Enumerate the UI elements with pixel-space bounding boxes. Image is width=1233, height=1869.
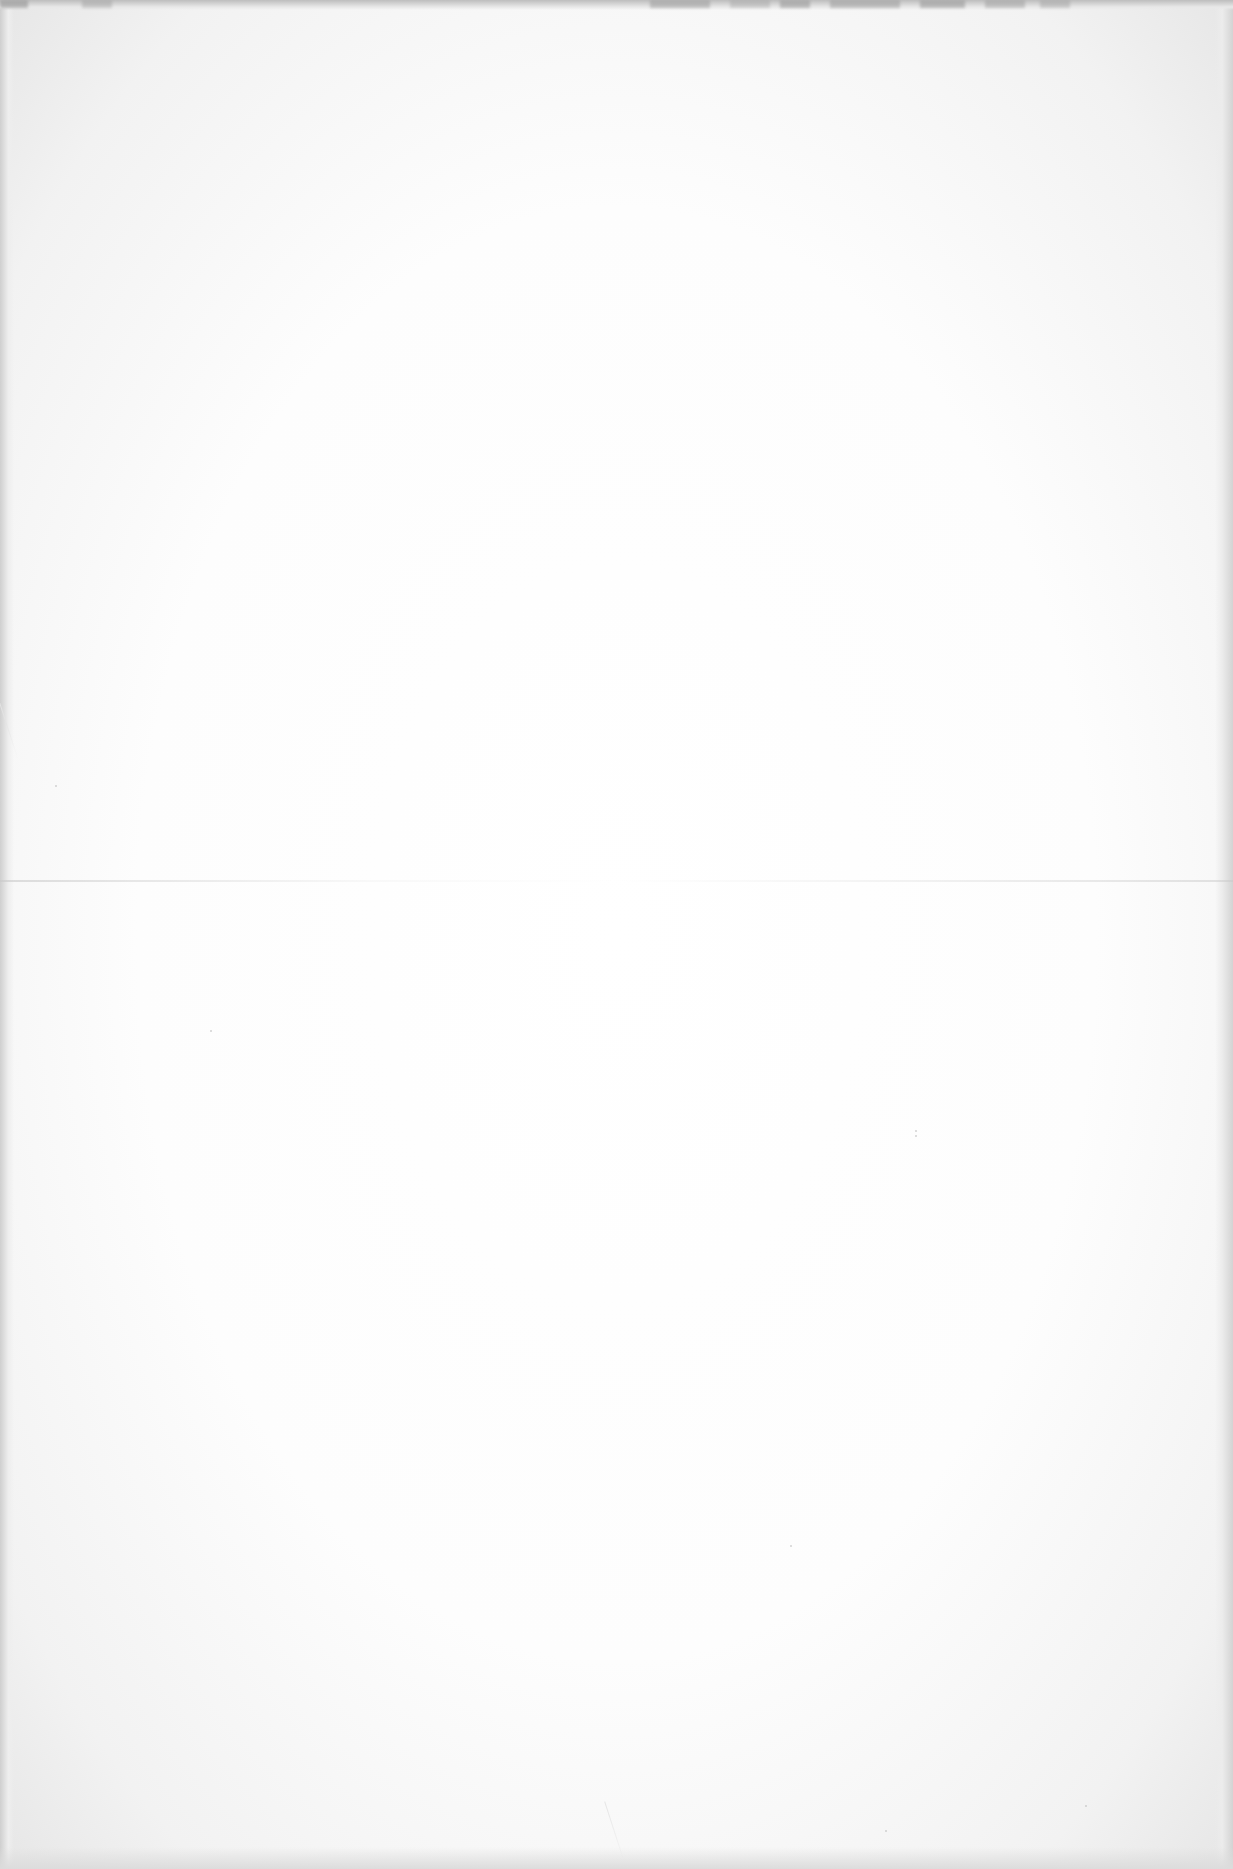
- scan-edge-left: [0, 0, 14, 1869]
- bleed-through-mark: [1040, 0, 1070, 8]
- blank-scanned-page: No legible content: [0, 0, 1233, 1869]
- bleed-through-mark: [830, 0, 900, 8]
- bleed-through-mark: [650, 0, 710, 8]
- bleed-through-mark: [985, 0, 1025, 8]
- bleed-through-mark: [920, 0, 965, 8]
- scan-speck: [915, 1135, 917, 1137]
- scan-speck: [885, 1830, 887, 1832]
- bleed-through-mark: [780, 0, 810, 8]
- scan-speck: [55, 785, 57, 787]
- bleed-through-mark: [82, 0, 112, 8]
- scan-edge-bottom: [0, 1847, 1233, 1869]
- scan-speck: [1085, 1805, 1087, 1807]
- scan-speck: [915, 1130, 917, 1132]
- page-fold-crease: [0, 880, 1233, 882]
- scan-edge-right: [1215, 0, 1233, 1869]
- scan-speck: [210, 1030, 212, 1032]
- bleed-through-mark: [730, 0, 770, 8]
- scan-speck: [790, 1545, 792, 1547]
- bleed-through-mark: [0, 0, 28, 8]
